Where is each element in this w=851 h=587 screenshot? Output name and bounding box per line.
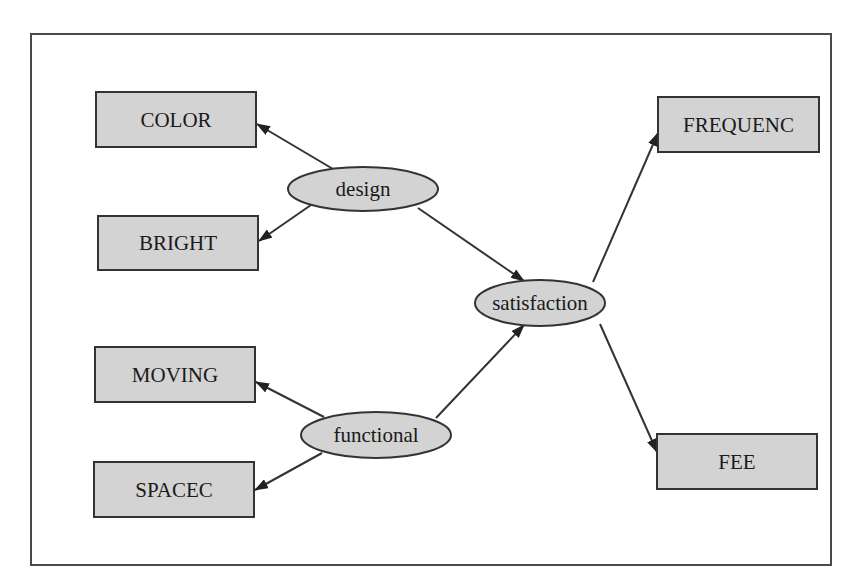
node-label: BRIGHT: [139, 231, 217, 255]
latent-node-functional: functional: [301, 412, 451, 458]
nodes: COLORBRIGHTMOVINGSPACECFREQUENCFEEdesign…: [94, 92, 819, 517]
observed-node-fee: FEE: [657, 434, 817, 489]
observed-node-frequenc: FREQUENC: [658, 97, 819, 152]
observed-node-bright: BRIGHT: [98, 216, 258, 270]
edge-functional-to-spacec: [255, 453, 322, 490]
node-label: design: [336, 177, 391, 201]
node-label: FREQUENC: [683, 113, 794, 137]
latent-node-design: design: [288, 167, 438, 211]
path-diagram: COLORBRIGHTMOVINGSPACECFREQUENCFEEdesign…: [0, 0, 851, 587]
edge-satisfaction-to-frequenc: [593, 133, 658, 282]
observed-node-color: COLOR: [96, 92, 256, 147]
edge-design-to-bright: [259, 205, 311, 241]
node-label: COLOR: [140, 108, 211, 132]
edge-design-to-color: [257, 124, 333, 169]
observed-node-spacec: SPACEC: [94, 462, 254, 517]
node-label: FEE: [718, 450, 755, 474]
edge-satisfaction-to-fee: [600, 324, 657, 452]
edge-design-to-satisfaction: [418, 208, 524, 281]
node-label: MOVING: [132, 363, 218, 387]
node-label: SPACEC: [135, 478, 212, 502]
observed-node-moving: MOVING: [95, 347, 255, 402]
edge-functional-to-moving: [256, 382, 324, 417]
node-label: functional: [333, 423, 418, 447]
diagram-canvas: COLORBRIGHTMOVINGSPACECFREQUENCFEEdesign…: [0, 0, 851, 587]
edge-functional-to-satisfaction: [436, 325, 524, 418]
latent-node-satisfaction: satisfaction: [475, 280, 605, 326]
node-label: satisfaction: [492, 291, 588, 315]
